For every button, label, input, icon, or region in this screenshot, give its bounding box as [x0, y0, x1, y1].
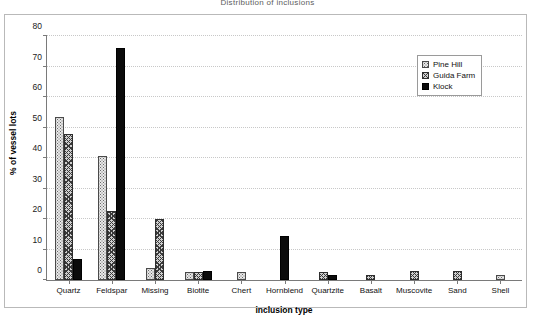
x-axis-tick-mark	[414, 280, 415, 284]
y-axis-tick-label: 70	[33, 52, 42, 62]
bar[interactable]	[410, 271, 419, 280]
x-axis-tick-mark	[371, 280, 372, 284]
bar[interactable]	[98, 156, 107, 280]
bar[interactable]	[453, 271, 462, 280]
y-axis-tick-label: 30	[33, 174, 42, 184]
y-axis-tick-label: 80	[33, 21, 42, 31]
x-axis-tick-label: Sand	[448, 286, 467, 295]
bar-group: Hornblend	[263, 36, 306, 280]
y-axis-tick-label: 20	[33, 204, 42, 214]
bar[interactable]	[319, 272, 328, 280]
bar[interactable]	[194, 272, 203, 280]
bar[interactable]	[146, 268, 155, 280]
legend-swatch-icon	[422, 72, 429, 79]
y-axis-tick-label: 0	[37, 265, 42, 275]
legend-swatch-icon	[422, 61, 429, 68]
x-axis-tick-label: Quartzite	[311, 286, 343, 295]
x-axis-tick-label: Basalt	[360, 286, 382, 295]
x-axis-tick-label: Feldspar	[96, 286, 127, 295]
x-axis-tick-mark	[328, 280, 329, 284]
legend-label: Pine Hill	[433, 60, 462, 69]
bar[interactable]	[73, 259, 82, 280]
legend-item[interactable]: Pine Hill	[422, 59, 475, 70]
bar[interactable]	[64, 134, 73, 280]
x-axis-tick-label: Shell	[492, 286, 510, 295]
y-axis-tick-label: 50	[33, 113, 42, 123]
x-axis-tick-label: Missing	[141, 286, 168, 295]
x-axis-tick-mark	[500, 280, 501, 284]
x-axis-tick-label: Biotite	[187, 286, 209, 295]
legend-swatch-icon	[422, 83, 429, 90]
bar[interactable]	[55, 117, 64, 280]
chart-legend: Pine HillGuida FarmKlock	[417, 55, 482, 96]
y-axis-tick-label: 60	[33, 82, 42, 92]
bar[interactable]	[185, 272, 194, 280]
x-axis-tick-mark	[285, 280, 286, 284]
x-axis-tick-mark	[241, 280, 242, 284]
legend-item[interactable]: Guida Farm	[422, 70, 475, 81]
x-axis-tick-mark	[198, 280, 199, 284]
legend-label: Klock	[433, 82, 453, 91]
y-axis-tick-label: 10	[33, 235, 42, 245]
bar[interactable]	[155, 219, 164, 280]
x-axis-tick-label: Hornblend	[266, 286, 303, 295]
x-axis-tick-label: Muscovite	[396, 286, 432, 295]
x-axis-tick-mark	[112, 280, 113, 284]
legend-label: Guida Farm	[433, 71, 475, 80]
y-axis-tick-label: 40	[33, 143, 42, 153]
bar[interactable]	[280, 236, 289, 280]
bar[interactable]	[237, 272, 246, 280]
x-axis-tick-label: Chert	[232, 286, 252, 295]
bar[interactable]	[203, 271, 212, 280]
bar-group: Missing	[133, 36, 176, 280]
x-axis-tick-mark	[69, 280, 70, 284]
legend-item[interactable]: Klock	[422, 81, 475, 92]
x-axis-tick-mark	[457, 280, 458, 284]
bar[interactable]	[107, 211, 116, 280]
bar-group: Feldspar	[90, 36, 133, 280]
chart-title: Distribution of inclusions	[0, 0, 535, 8]
bar-group: Biotite	[177, 36, 220, 280]
chart-frame: % of vessel lots inclusion type 01020304…	[4, 14, 527, 308]
bar-group: Quartz	[47, 36, 90, 280]
bar[interactable]	[116, 48, 125, 280]
bar-group: Quartzite	[306, 36, 349, 280]
bar[interactable]	[328, 275, 337, 280]
x-axis-tick-mark	[155, 280, 156, 284]
x-axis-label: inclusion type	[46, 305, 522, 315]
y-axis-label: % of vessel lots	[8, 111, 18, 175]
bar-group: Basalt	[349, 36, 392, 280]
bar-group: Shell	[479, 36, 522, 280]
x-axis-tick-label: Quartz	[57, 286, 81, 295]
bar-group: Chert	[220, 36, 263, 280]
